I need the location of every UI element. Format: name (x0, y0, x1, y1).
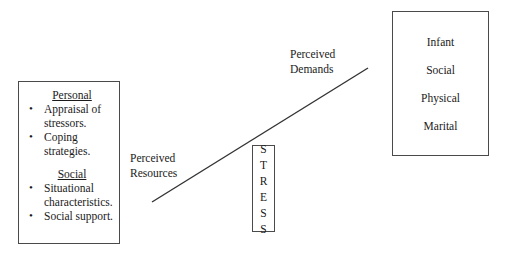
social-bullet-list: Situational characteristics. Social supp… (23, 181, 115, 223)
diagram-canvas: Personal Appraisal of stressors. Coping … (0, 0, 506, 260)
group-heading-personal: Personal (29, 88, 115, 102)
stress-letter: T (260, 157, 267, 173)
group-heading-social: Social (29, 167, 115, 181)
group-divider-spacer (23, 158, 115, 167)
list-item: Infant (393, 28, 488, 56)
stress-letter: S (260, 141, 266, 157)
list-item: Marital (393, 112, 488, 140)
stress-letter: S (260, 205, 266, 221)
outcome-list: Infant Social Physical Marital (393, 12, 488, 155)
list-item: Appraisal of stressors. (23, 102, 115, 130)
list-item: Situational characteristics. (23, 181, 115, 209)
stress-letter-list: S T R E S S (253, 146, 274, 231)
list-item: Social (393, 56, 488, 84)
stress-letter: E (260, 189, 267, 205)
perceived-resources-label: Perceived Resources (130, 151, 177, 181)
list-item: Physical (393, 84, 488, 112)
outcomes-box: Infant Social Physical Marital (392, 11, 489, 156)
stress-letter: R (260, 173, 268, 189)
stress-letter: S (260, 221, 266, 237)
list-item: Coping strategies. (23, 130, 115, 158)
resources-box: Personal Appraisal of stressors. Coping … (18, 81, 120, 244)
personal-bullet-list: Appraisal of stressors. Coping strategie… (23, 102, 115, 158)
stress-box: S T R E S S (252, 145, 275, 232)
list-item: Social support. (23, 209, 115, 223)
perceived-demands-label: Perceived Demands (290, 47, 335, 77)
